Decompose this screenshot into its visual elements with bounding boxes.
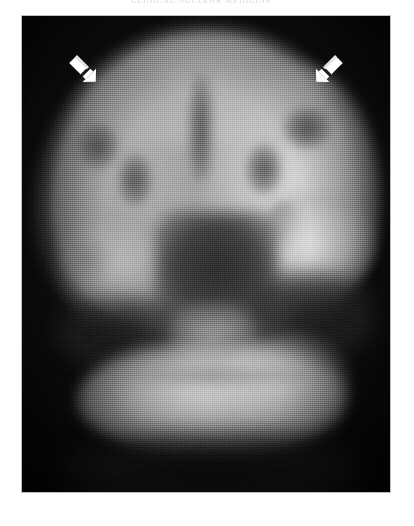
- interhemispheric-fissure-region: [190, 74, 212, 182]
- cropped-header-strip: CLINICAL NUCLEAR MEDICINE: [0, 0, 414, 9]
- right-sulcus-region: [246, 144, 282, 194]
- cerebellar-fissure-region: [118, 368, 318, 384]
- cropped-header-text: CLINICAL NUCLEAR MEDICINE: [131, 0, 271, 5]
- brain-scan-image: [22, 16, 390, 492]
- left-sulcus-region: [78, 124, 118, 168]
- left-frontal-arrow-icon[interactable]: [60, 46, 106, 92]
- left-sulcus-region: [118, 154, 152, 206]
- figure-page: CLINICAL NUCLEAR MEDICINE: [0, 0, 414, 526]
- right-frontal-arrow-icon[interactable]: [306, 46, 352, 92]
- inferior-margin-region: [62, 434, 362, 492]
- right-sulcus-region: [284, 108, 330, 148]
